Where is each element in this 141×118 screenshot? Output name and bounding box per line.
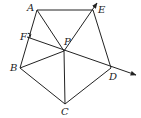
segment-CP bbox=[64, 51, 65, 104]
segment-ED bbox=[93, 10, 111, 68]
geometry-diagram: A E F P B D C bbox=[0, 0, 141, 118]
label-C: C bbox=[61, 106, 69, 117]
label-P: P bbox=[63, 36, 71, 47]
label-A: A bbox=[26, 2, 34, 13]
label-F: F bbox=[19, 31, 28, 42]
ray-FD bbox=[27, 37, 136, 75]
segment-CD bbox=[65, 68, 111, 104]
label-D: D bbox=[108, 71, 117, 82]
label-B: B bbox=[9, 62, 17, 73]
label-E: E bbox=[97, 4, 106, 15]
segment-BC bbox=[20, 68, 65, 104]
segment-BP bbox=[20, 51, 64, 68]
